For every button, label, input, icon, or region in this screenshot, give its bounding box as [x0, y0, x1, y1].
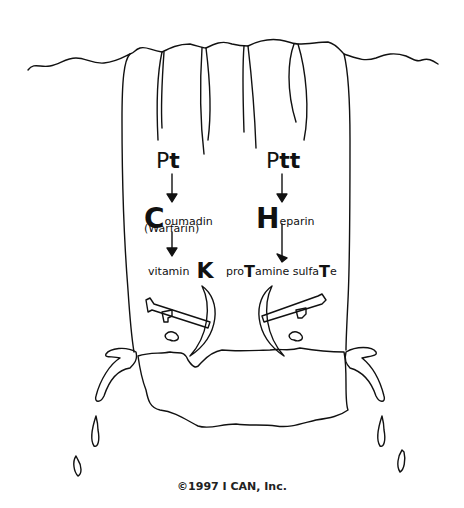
illustration — [0, 0, 464, 508]
left-curl — [96, 348, 137, 401]
label-pt: Pt — [156, 148, 180, 173]
right-curl — [345, 348, 384, 402]
broken-block — [138, 348, 348, 427]
right-sickle — [259, 286, 284, 356]
label-warfarin: (Warfarin) — [144, 222, 199, 235]
left-sickle — [190, 286, 215, 356]
label-ptt: Ptt — [266, 148, 300, 173]
label-vitamin-k: vitamin K — [148, 258, 213, 283]
sheet-outline — [122, 54, 134, 352]
drop-icon — [92, 416, 99, 446]
label-heparin: Heparin — [256, 202, 314, 235]
wavy-line — [28, 39, 438, 70]
label-protamine-sulfate: proTamine sulfaTe — [226, 262, 337, 281]
copyright: ©1997 I CAN, Inc. — [0, 480, 464, 493]
